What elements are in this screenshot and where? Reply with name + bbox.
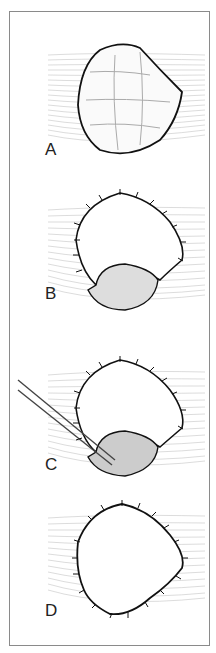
panel-label-b: B: [45, 285, 56, 302]
wound-illustration-c: [0, 320, 216, 490]
wound-illustration-a: [0, 0, 216, 170]
panel-b: B: [0, 160, 216, 320]
panel-a: A: [0, 0, 216, 170]
panel-label-a: A: [45, 141, 56, 158]
panel-d: D: [0, 480, 216, 653]
panel-label-d: D: [45, 602, 57, 619]
wound-illustration-b: [0, 160, 216, 320]
panel-label-c: C: [45, 456, 57, 473]
panel-c: C: [0, 320, 216, 490]
wound-illustration-d: [0, 480, 216, 653]
